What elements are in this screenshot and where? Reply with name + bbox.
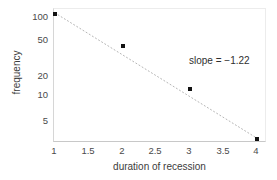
y-tick-label: 100 xyxy=(32,12,48,22)
y-tick-label: 5 xyxy=(43,116,48,126)
x-tick-label: 1 xyxy=(51,146,56,156)
data-point-marker xyxy=(121,44,125,48)
x-tick-label: 1.5 xyxy=(81,146,94,156)
y-tick-label: 50 xyxy=(37,35,48,45)
data-point-marker xyxy=(255,137,259,141)
slope-annotation: slope = −1.22 xyxy=(189,55,250,66)
x-tick-label: 4 xyxy=(253,146,258,156)
regression-line xyxy=(55,13,255,137)
y-tick-label: 20 xyxy=(37,71,48,81)
x-tick-label: 3 xyxy=(186,146,191,156)
plot-area: slope = −1.22 xyxy=(53,8,266,142)
y-axis-title: frequency xyxy=(11,18,22,128)
data-point-marker xyxy=(188,87,192,91)
chart-data-layer xyxy=(54,9,265,141)
x-tick-label: 2 xyxy=(119,146,124,156)
data-point-marker xyxy=(53,12,57,16)
y-tick-label: 10 xyxy=(37,90,48,100)
x-tick-label: 3.5 xyxy=(216,146,229,156)
x-tick-label: 2.5 xyxy=(148,146,161,156)
chart-figure: slope = −1.22 100 50 20 10 5 1 1.5 2 2.5… xyxy=(0,0,277,180)
y-axis-tick-labels: 100 50 20 10 5 xyxy=(0,8,48,142)
x-axis-title: duration of recession xyxy=(53,161,266,172)
x-axis-tick-labels: 1 1.5 2 2.5 3 3.5 4 xyxy=(53,146,266,158)
